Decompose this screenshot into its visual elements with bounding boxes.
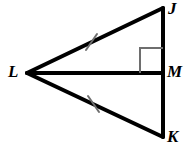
vertex-label-K: K <box>167 128 178 145</box>
segment-LJ <box>27 8 163 73</box>
vertex-label-L: L <box>8 63 18 80</box>
geometry-figure: J L M K <box>0 0 191 148</box>
figure-canvas <box>0 0 191 148</box>
vertex-label-M: M <box>167 63 182 80</box>
right-angle-marker-M <box>140 48 163 73</box>
vertex-label-J: J <box>168 0 177 17</box>
